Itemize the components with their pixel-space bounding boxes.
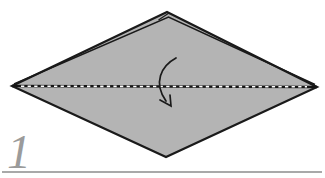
center-fold-line — [12, 86, 317, 87]
paper-diamond — [12, 12, 317, 157]
origami-figure — [0, 0, 325, 178]
step-number: 1 — [7, 128, 31, 176]
origami-step-diagram: 1 — [0, 0, 325, 178]
step-rule-line — [2, 171, 322, 173]
